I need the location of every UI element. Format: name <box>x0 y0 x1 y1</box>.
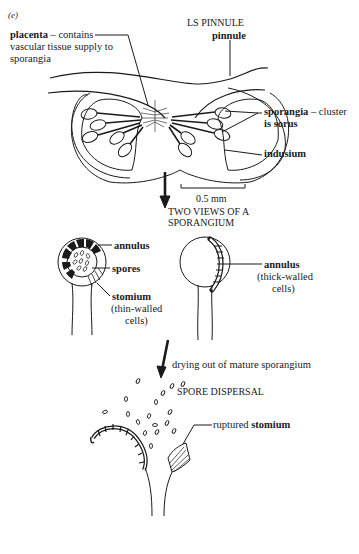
label-stomium-note2: cells) <box>125 315 148 326</box>
pinnule-upper-surface <box>50 68 268 84</box>
sporangium-view-left <box>58 238 112 335</box>
label-pinnule: pinnule <box>212 30 246 41</box>
spore-cloud <box>102 378 185 448</box>
arrow-down-2 <box>157 340 168 378</box>
indusium-left-inner <box>72 95 130 178</box>
label-placenta-line3: sporangia <box>10 53 51 64</box>
label-spores: spores <box>112 263 140 274</box>
label-sporangia: sporangia – cluster <box>264 106 347 117</box>
label-sporangia-line2: is sorus <box>264 118 298 129</box>
scale-bar-label: 0.5 mm <box>196 193 227 204</box>
label-annulus-left: annulus <box>114 240 150 251</box>
pinnule-lower-surface <box>48 90 265 118</box>
ruptured-sporangium <box>91 424 212 516</box>
section-title-ls-pinnule: LS PINNULE <box>187 17 244 28</box>
spore-dispersal-title: SPORE DISPERSAL <box>177 386 264 397</box>
scale-bar <box>181 184 245 188</box>
ruptured-term: stomium <box>251 419 290 430</box>
panel-label: (e) <box>8 10 18 21</box>
label-placenta: placenta – contains <box>10 29 93 40</box>
two-views-title-line2: SPORANGIUM <box>168 217 234 228</box>
label-annulus-note1: (thick-walled <box>257 271 313 282</box>
sporangia-term: sporangia <box>264 106 308 117</box>
ruptured-prefix: ruptured <box>213 419 251 430</box>
label-drying-out: drying out of mature sporangium <box>172 359 311 370</box>
chamber-left <box>82 99 142 170</box>
label-placenta-line2: vascular tissue supply to <box>10 41 113 52</box>
label-annulus-right: annulus <box>264 259 300 270</box>
label-stomium-note1: (thin-walled <box>111 303 162 314</box>
indusium-leader <box>225 150 262 155</box>
label-stomium: stomium <box>112 291 151 302</box>
two-views-title-line1: TWO VIEWS OF A <box>168 206 249 217</box>
indusium-left <box>71 93 180 183</box>
placenta-term: placenta <box>10 29 48 40</box>
sporangia-left <box>80 108 143 160</box>
label-ruptured-stomium: ruptured stomium <box>213 419 290 430</box>
sporangia-desc: – cluster <box>308 106 347 117</box>
label-indusium: indusium <box>264 148 306 159</box>
sporangia-leader <box>222 111 262 132</box>
sporangium-view-right <box>180 237 262 340</box>
placenta-desc: – contains <box>48 29 94 40</box>
label-annulus-note2: cells) <box>272 283 295 294</box>
